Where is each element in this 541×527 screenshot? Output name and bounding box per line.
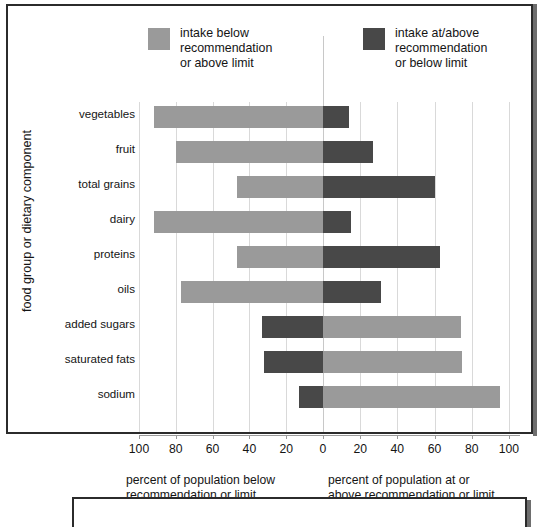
- bar-saturated-fats-atabove: [264, 351, 323, 373]
- legend-swatch-atabove-icon: [363, 28, 385, 50]
- bar-vegetables-atabove: [323, 106, 349, 128]
- x-tick-label: 80: [156, 442, 196, 456]
- bar-proteins-below: [237, 246, 323, 268]
- x-axis-tick-labels: 10080604020020406080100: [8, 442, 541, 458]
- bar-row: [139, 316, 520, 338]
- bottom-caption-box: [72, 497, 527, 527]
- bar-row: [139, 246, 520, 268]
- bar-row: [139, 176, 520, 198]
- chart-legend: intake below recommendation or above lim…: [8, 22, 535, 94]
- x-axis-tick: [509, 435, 510, 439]
- bar-oils-atabove: [323, 281, 381, 303]
- x-axis-tick: [176, 435, 177, 439]
- legend-item-below[interactable]: intake below recommendation or above lim…: [148, 26, 272, 72]
- plot-area: [139, 102, 520, 432]
- x-axis-tick: [360, 435, 361, 439]
- bar-total-grains-below: [237, 176, 323, 198]
- x-tick-label: 20: [340, 442, 380, 456]
- bar-dairy-atabove: [323, 211, 351, 233]
- y-label-dairy: dairy: [36, 212, 135, 225]
- bar-row: [139, 211, 520, 233]
- x-axis-tick: [323, 435, 324, 439]
- x-axis-tick: [139, 435, 140, 439]
- bar-row: [139, 106, 520, 128]
- legend-item-atabove[interactable]: intake at/above recommendation or below …: [363, 26, 487, 72]
- bar-added-sugars-atabove: [262, 316, 323, 338]
- x-tick-label: 60: [415, 442, 455, 456]
- bar-row: [139, 351, 520, 373]
- x-axis-tick: [435, 435, 436, 439]
- x-tick-label: 0: [303, 442, 343, 456]
- bar-row: [139, 281, 520, 303]
- legend-swatch-below-icon: [148, 28, 170, 50]
- bar-row: [139, 141, 520, 163]
- legend-label-atabove: intake at/above recommendation or below …: [395, 26, 487, 72]
- bar-row: [139, 386, 520, 408]
- page-left-edge: [0, 0, 5, 515]
- x-tick-label: 100: [119, 442, 159, 456]
- y-label-oils: oils: [36, 282, 135, 295]
- bar-rows: [139, 102, 520, 432]
- y-axis-category-labels: vegetables fruit total grains dairy prot…: [36, 102, 135, 432]
- bar-oils-below: [181, 281, 323, 303]
- x-tick-label: 80: [452, 442, 492, 456]
- bar-sodium-below: [323, 386, 500, 408]
- x-tick-label: 40: [377, 442, 417, 456]
- y-label-vegetables: vegetables: [36, 107, 135, 120]
- x-axis-tick: [213, 435, 214, 439]
- bar-added-sugars-below: [323, 316, 461, 338]
- chart-frame: intake below recommendation or above lim…: [6, 4, 533, 434]
- y-label-fruit: fruit: [36, 142, 135, 155]
- x-axis-tick: [472, 435, 473, 439]
- legend-label-below: intake below recommendation or above lim…: [180, 26, 272, 72]
- x-tick-label: 60: [193, 442, 233, 456]
- x-tick-label: 100: [489, 442, 529, 456]
- y-label-total-grains: total grains: [36, 177, 135, 190]
- bar-dairy-below: [154, 211, 323, 233]
- bar-vegetables-below: [154, 106, 323, 128]
- x-axis-line: [139, 435, 520, 436]
- y-label-proteins: proteins: [36, 247, 135, 260]
- bottom-box-shadow: [527, 500, 531, 527]
- x-axis-tick: [286, 435, 287, 439]
- x-axis-tick: [397, 435, 398, 439]
- y-label-added-sugars: added sugars: [36, 317, 135, 330]
- bar-sodium-atabove: [299, 386, 323, 408]
- x-axis-tick: [249, 435, 250, 439]
- bar-saturated-fats-below: [323, 351, 462, 373]
- x-tick-label: 20: [266, 442, 306, 456]
- x-tick-label: 40: [229, 442, 269, 456]
- bar-fruit-below: [176, 141, 323, 163]
- bar-proteins-atabove: [323, 246, 440, 268]
- y-label-sodium: sodium: [36, 387, 135, 400]
- bar-total-grains-atabove: [323, 176, 435, 198]
- y-label-saturated-fats: saturated fats: [36, 352, 135, 365]
- y-axis-title: food group or dietary component: [20, 106, 34, 336]
- bar-fruit-atabove: [323, 141, 373, 163]
